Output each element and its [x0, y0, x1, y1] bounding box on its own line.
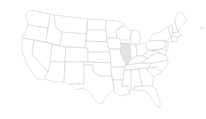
state-south-dakota[interactable] [86, 30, 107, 42]
state-iowa[interactable] [107, 38, 122, 49]
state-kansas[interactable] [88, 52, 111, 63]
state-connecticut[interactable] [171, 37, 178, 42]
state-nebraska[interactable] [85, 41, 110, 52]
state-pennsylvania[interactable] [145, 40, 166, 50]
states [22, 10, 187, 108]
state-new-mexico[interactable] [64, 62, 84, 84]
state-colorado[interactable] [65, 47, 88, 62]
state-wyoming[interactable] [60, 32, 86, 48]
us-map [0, 0, 206, 119]
state-utah[interactable] [50, 44, 66, 62]
state-north-dakota[interactable] [87, 19, 106, 30]
state-michigan[interactable] [130, 30, 141, 44]
state-arkansas[interactable] [111, 67, 125, 80]
state-florida[interactable] [134, 86, 160, 108]
